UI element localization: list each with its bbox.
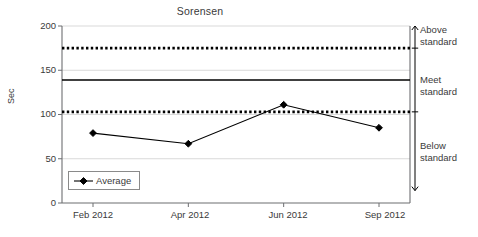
legend-marker-diamond — [80, 178, 87, 185]
data-point-jun-2012[interactable] — [280, 101, 287, 108]
legend-marker-group — [74, 178, 93, 185]
gridlines-group — [62, 26, 410, 159]
axis-lines-group — [58, 26, 410, 207]
data-point-sep-2012[interactable] — [376, 124, 383, 131]
zone-bracket-group — [412, 26, 418, 191]
plot-area — [0, 0, 478, 237]
data-point-apr-2012[interactable] — [185, 140, 192, 147]
chart-container: Sorensen Sec 200 150 100 50 0 Feb 2012 A… — [0, 0, 478, 237]
reference-lines-group — [62, 48, 410, 112]
data-point-feb-2012[interactable] — [90, 130, 97, 137]
